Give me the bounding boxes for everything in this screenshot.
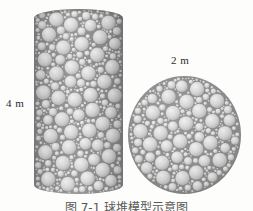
packed-cylinder-body (34, 9, 123, 194)
figure-caption-text: 图 7-1 球堆模型示意图 (0, 201, 253, 211)
packed-cylinder-figure (34, 9, 123, 194)
packed-circle-body (128, 76, 241, 194)
cylinder-height-label: 4 m (6, 97, 24, 109)
cylinder-sphere-packing (34, 9, 123, 194)
packed-circle-figure (128, 76, 241, 194)
figure-canvas: 4 m 2 m 图 7-1 球堆模型示意图 (0, 0, 253, 211)
circle-diameter-label: 2 m (171, 54, 189, 66)
circle-sphere-packing (128, 76, 241, 194)
figure-caption: 图 7-1 球堆模型示意图 (0, 201, 253, 211)
